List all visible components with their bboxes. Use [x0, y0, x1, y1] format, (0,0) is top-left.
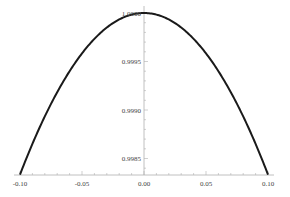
line-chart: -0.10-0.050.000.050.100.99850.99900.9995… [0, 0, 290, 197]
axes [14, 6, 274, 175]
x-tick-label: 0.10 [262, 180, 275, 188]
x-tick-label: 0.00 [138, 180, 151, 188]
x-tick-label: -0.05 [75, 180, 90, 188]
y-tick-label: 0.9985 [122, 155, 142, 163]
x-tick-label: 0.05 [200, 180, 213, 188]
y-tick-label: 0.9990 [122, 107, 142, 115]
x-tick-label: -0.10 [13, 180, 28, 188]
y-tick-label: 0.9995 [122, 58, 142, 66]
y-tick-label: 1.0000 [122, 10, 142, 18]
